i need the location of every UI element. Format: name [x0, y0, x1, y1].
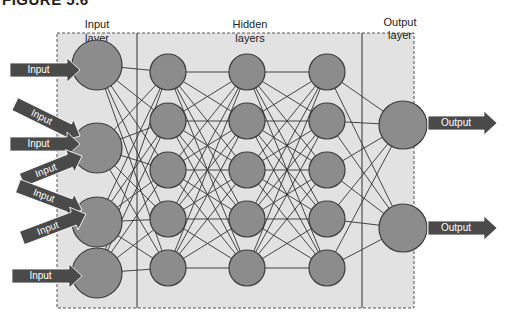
hidden1-neuron [150, 201, 186, 237]
hidden2-neuron [229, 201, 265, 237]
arrow-label: Output [441, 117, 471, 128]
hidden2-neuron [229, 103, 265, 139]
arrow-label: Input [29, 270, 51, 281]
arrow-label: Output [441, 222, 471, 233]
neural-network-diagram: Input layer Hidden layers Output layer I… [0, 0, 507, 320]
hidden2-neuron [229, 250, 265, 286]
input-layer-title-1: Input [85, 18, 109, 30]
hidden-layers-title-2: layers [235, 32, 265, 44]
input-arrow-1: Input [10, 58, 80, 82]
hidden1-neuron [150, 152, 186, 188]
output-layer-title-2: layer [388, 29, 412, 41]
hidden3-neuron [309, 152, 345, 188]
output-neuron [379, 204, 427, 252]
arrow-label: Input [27, 64, 49, 75]
hidden3-neuron [309, 103, 345, 139]
hidden2-neuron [229, 152, 265, 188]
output-arrow-1: Output [428, 111, 497, 135]
hidden3-neuron [309, 250, 345, 286]
hidden2-neuron [229, 54, 265, 90]
input-neuron [72, 40, 122, 90]
hidden3-neuron [309, 201, 345, 237]
output-layer-title-1: Output [383, 16, 416, 28]
hidden1-neuron [150, 250, 186, 286]
hidden1-neuron [150, 54, 186, 90]
arrow-label: Input [27, 138, 49, 149]
output-neuron [379, 101, 427, 149]
hidden3-neuron [309, 54, 345, 90]
input-neuron [72, 248, 122, 298]
output-arrow-2: Output [428, 216, 497, 240]
input-arrow-7: Input [12, 264, 82, 288]
hidden1-neuron [150, 103, 186, 139]
input-neuron [72, 123, 122, 173]
hidden-layers-title-1: Hidden [233, 18, 268, 30]
